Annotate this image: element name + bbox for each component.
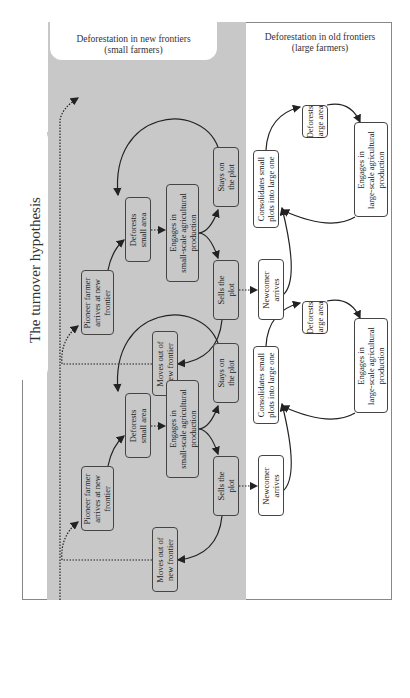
box-newcomer-1: Newcomer arrives <box>258 259 284 320</box>
box-pioneer-farmer-1: Pioneer farmer arrives at new frontier <box>81 270 114 335</box>
box-label: Stays on the plot <box>216 162 236 191</box>
box-newcomer-2: Newcomer arrives <box>258 455 284 516</box>
box-label: Consolidates small plots into large one <box>256 352 276 417</box>
box-label: Sells the plot <box>216 471 236 500</box>
box-consolidates-2: Consolidates small plots into large one <box>253 346 279 424</box>
box-moves-out-2: Moves out of new frontier <box>152 527 178 592</box>
box-deforests-small-2: Deforests small area <box>125 393 151 458</box>
box-label: Deforests small area <box>128 212 148 247</box>
box-sells-2: Sells the plot <box>213 456 239 516</box>
box-engages-large-1: Engages in large-scale agricultural prod… <box>354 122 388 217</box>
box-pioneer-farmer-2: Pioneer farmer arrives at new frontier <box>81 466 114 531</box>
box-label: Engages in small-scale agricultural prod… <box>168 193 198 273</box>
box-sells-1: Sells the plot <box>213 260 239 320</box>
box-label: Consolidates small plots into large one <box>256 156 276 221</box>
box-label: Newcomer arrives <box>261 467 281 504</box>
box-label: Pioneer farmer arrives at new frontier <box>83 473 113 524</box>
box-stays-2: Stays on the plot <box>213 343 239 403</box>
box-deforests-small-1: Deforests small area <box>125 197 151 262</box>
box-label: Moves out of new frontier <box>155 537 175 582</box>
box-label: Deforests large area <box>305 301 325 334</box>
box-stays-1: Stays on the plot <box>213 147 239 207</box>
box-consolidates-1: Consolidates small plots into large one <box>253 150 279 228</box>
box-engages-small-2: Engages in small-scale agricultural prod… <box>166 380 199 478</box>
box-label: Engages in small-scale agricultural prod… <box>168 389 198 469</box>
box-label: Engages in large-scale agricultural prod… <box>356 327 386 405</box>
box-deforests-large-2: Deforests large area <box>302 301 328 334</box>
box-engages-large-2: Engages in large-scale agricultural prod… <box>354 318 388 413</box>
box-label: Sells the plot <box>216 275 236 304</box>
box-label: Deforests small area <box>128 408 148 443</box>
box-label: Pioneer farmer arrives at new frontier <box>83 277 113 328</box>
box-label: Engages in large-scale agricultural prod… <box>356 131 386 209</box>
box-label: Stays on the plot <box>216 358 236 387</box>
box-label: Deforests large area <box>305 105 325 138</box>
arrows-layer <box>0 0 410 698</box>
box-deforests-large-1: Deforests large area <box>302 105 328 138</box>
box-engages-small-1: Engages in small-scale agricultural prod… <box>166 184 199 282</box>
box-label: Newcomer arrives <box>261 271 281 308</box>
